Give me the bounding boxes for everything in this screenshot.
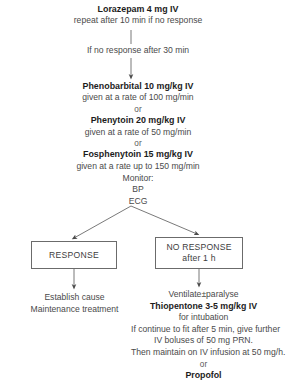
phenytoin-drug-label: Phenytoin 20 mg/kg IV bbox=[0, 115, 276, 126]
lorazepam-instruction: repeat after 10 min if no response bbox=[0, 15, 276, 26]
response-outcome-line-1: Establish cause bbox=[7, 291, 142, 303]
monitor-item-ecg: ECG bbox=[0, 196, 276, 207]
phenobarbital-rate-label: given at a rate of 100 mg/min bbox=[0, 92, 276, 103]
second-line-regimen-block: Phenobarbital 10 mg/kg IV given at a rat… bbox=[0, 81, 276, 172]
no-response-outcome-block: Ventilate±paralyse Thiopentone 3-5 mg/kg… bbox=[131, 289, 276, 382]
fosphenytoin-drug-label: Fosphenytoin 15 mg/kg IV bbox=[0, 149, 276, 160]
monitoring-block: Monitor: BP ECG bbox=[0, 173, 276, 207]
thiopentone-drug-label: Thiopentone 3-5 mg/kg IV bbox=[131, 301, 276, 313]
no-response-30min-label: If no response after 30 min bbox=[0, 45, 276, 56]
response-outcome-line-2: Maintenance treatment bbox=[7, 303, 142, 315]
monitor-item-bp: BP bbox=[0, 184, 276, 195]
no-response-box-sublabel: after 1 h bbox=[182, 253, 215, 264]
regimen-or-separator-2: or bbox=[0, 138, 276, 149]
response-box[interactable]: RESPONSE bbox=[31, 241, 117, 269]
no-response-box[interactable]: NO RESPONSE after 1 h bbox=[155, 237, 243, 269]
response-outcome-block: Establish cause Maintenance treatment bbox=[7, 291, 142, 315]
initial-treatment-block: Lorazepam 4 mg IV repeat after 10 min if… bbox=[0, 4, 276, 27]
phenobarbital-drug-label: Phenobarbital 10 mg/kg IV bbox=[0, 81, 276, 92]
maintain-infusion-label: Then maintain on IV infusion at 50 mg/h. bbox=[131, 347, 276, 359]
ventilate-paralyse-label: Ventilate±paralyse bbox=[131, 289, 276, 301]
lorazepam-drug-label: Lorazepam 4 mg IV bbox=[0, 4, 276, 15]
intubation-label: for intubation bbox=[131, 312, 276, 324]
regimen-or-separator-1: or bbox=[0, 104, 276, 115]
continue-to-fit-label: If continue to fit after 5 min, give fur… bbox=[131, 324, 276, 336]
fosphenytoin-rate-label: given at a rate up to 150 mg/min bbox=[0, 161, 276, 172]
monitor-heading: Monitor: bbox=[0, 173, 276, 184]
iv-boluses-label: IV boluses of 50 mg PRN. bbox=[131, 335, 276, 347]
response-box-label: RESPONSE bbox=[49, 250, 99, 261]
phenytoin-rate-label: given at a rate of 50 mg/min bbox=[0, 127, 276, 138]
outcome-or-separator: or bbox=[131, 359, 276, 371]
no-response-box-label: NO RESPONSE bbox=[166, 242, 231, 253]
propofol-drug-label: Propofol bbox=[131, 370, 276, 382]
